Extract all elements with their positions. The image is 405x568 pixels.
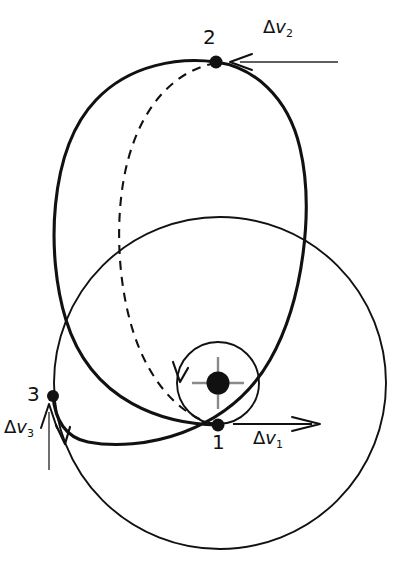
dv3-label: Δv3 (4, 418, 34, 436)
orbital-transfer-figure: 2 1 3 Δv1 Δv2 Δv3 (0, 0, 405, 568)
dv2-delta-symbol: Δ (263, 16, 275, 37)
node-label-3: 3 (27, 384, 40, 404)
dv1-delta-symbol: Δ (253, 427, 265, 448)
dv3-subscript: 3 (27, 427, 34, 440)
diagram-canvas (0, 0, 405, 568)
second-transfer-ellipse (119, 63, 217, 425)
central-body (207, 372, 230, 395)
node-label-1: 1 (212, 432, 225, 452)
dv2-label: Δv2 (263, 18, 293, 36)
dv3-delta-symbol: Δ (4, 416, 16, 437)
node-label-2: 2 (203, 27, 216, 47)
node-marker-3 (47, 390, 59, 402)
dv1-v-symbol: v (265, 427, 276, 448)
dv1-label: Δv1 (253, 429, 283, 447)
node-marker-2 (210, 56, 223, 69)
dv1-subscript: 1 (276, 438, 283, 451)
dv2-v-symbol: v (275, 16, 286, 37)
dv3-v-symbol: v (16, 416, 27, 437)
dv2-subscript: 2 (286, 27, 293, 40)
first-transfer-ellipse (53, 61, 306, 445)
